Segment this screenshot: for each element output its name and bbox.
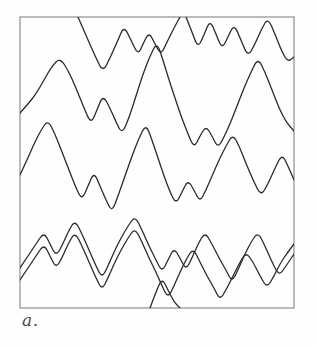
waveform-trace <box>20 46 294 145</box>
waveform-plot <box>0 0 316 346</box>
waveform-trace <box>150 281 180 308</box>
waveform-trace <box>20 123 294 209</box>
waveform-trace <box>20 219 294 279</box>
panel-label: a. <box>22 312 39 329</box>
waveform-trace <box>20 231 294 297</box>
waveform-trace <box>186 17 294 60</box>
figure-panel: a. <box>0 0 316 346</box>
waveform-trace <box>78 17 180 69</box>
waveform-traces <box>20 17 294 308</box>
